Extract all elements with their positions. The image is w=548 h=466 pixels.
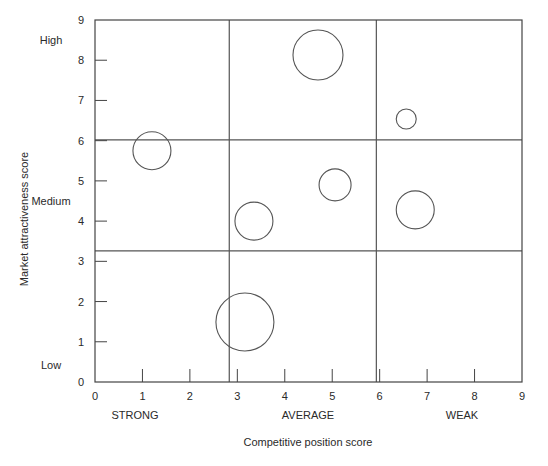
x-tick-label: 7 (424, 390, 430, 402)
x-tick-label: 5 (329, 390, 335, 402)
y-tick-label: 1 (78, 336, 84, 348)
y-tick-label: 8 (78, 54, 84, 66)
y-axis-title: Market attractiveness score (18, 152, 30, 287)
x-tick-label: 2 (187, 390, 193, 402)
x-band-label-average: AVERAGE (282, 409, 334, 421)
bubble (133, 132, 171, 170)
x-band-label-strong: STRONG (111, 409, 158, 421)
x-tick-label: 3 (234, 390, 240, 402)
bubbles (133, 30, 434, 351)
ticks: 01234567890123456789 (78, 14, 525, 402)
y-tick-label: 4 (78, 215, 84, 227)
bubble (319, 169, 351, 201)
y-tick-label: 5 (78, 175, 84, 187)
x-tick-label: 0 (92, 390, 98, 402)
matrix-dividers (95, 20, 522, 382)
bubble (216, 293, 274, 351)
x-tick-label: 9 (519, 390, 525, 402)
band-labels: STRONGAVERAGEWEAKLowMediumHigh (31, 34, 478, 421)
y-tick-label: 2 (78, 296, 84, 308)
bubble (235, 202, 273, 240)
plot-frame (95, 20, 522, 382)
axes (95, 20, 522, 382)
y-tick-label: 0 (78, 376, 84, 388)
y-band-label-low: Low (41, 359, 61, 371)
x-tick-label: 4 (282, 390, 288, 402)
x-band-label-weak: WEAK (446, 409, 479, 421)
y-tick-label: 9 (78, 14, 84, 26)
x-tick-label: 1 (139, 390, 145, 402)
y-tick-label: 3 (78, 255, 84, 267)
y-tick-label: 6 (78, 135, 84, 147)
y-band-label-medium: Medium (31, 195, 70, 207)
bubble (293, 30, 343, 80)
x-axis-title: Competitive position score (243, 436, 372, 448)
bubble (396, 191, 434, 229)
bubble (396, 109, 416, 129)
x-tick-label: 6 (377, 390, 383, 402)
x-tick-label: 8 (471, 390, 477, 402)
bubble-chart: 01234567890123456789 STRONGAVERAGEWEAKLo… (0, 0, 548, 466)
y-band-label-high: High (40, 34, 63, 46)
y-tick-label: 7 (78, 94, 84, 106)
